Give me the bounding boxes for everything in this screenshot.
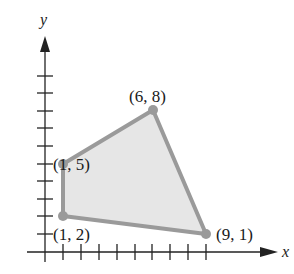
x-axis-label: x — [281, 243, 289, 260]
vertex-1-2 — [58, 211, 68, 221]
x-axis-arrow-icon — [260, 247, 278, 257]
vertex-label-1-5: (1, 5) — [53, 155, 90, 174]
y-axis: y — [37, 11, 53, 262]
y-axis-label: y — [38, 11, 48, 29]
vertex-6-8 — [148, 105, 158, 115]
y-axis-arrow-icon — [40, 36, 50, 52]
vertex-label-6-8: (6, 8) — [129, 87, 166, 106]
vertex-label-1-2: (1, 2) — [53, 225, 90, 244]
x-axis: x — [27, 243, 289, 260]
feasible-region-diagram: y x (1, 5) — [0, 0, 294, 274]
vertex-label-9-1: (9, 1) — [216, 225, 253, 244]
vertex-9-1 — [201, 229, 211, 239]
